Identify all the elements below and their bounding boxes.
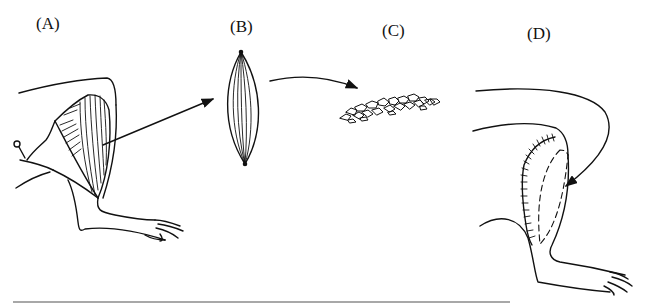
implant-region xyxy=(539,150,568,244)
panel-d-limb-drawing xyxy=(473,89,632,295)
arrow-a-to-b xyxy=(103,99,213,145)
panel-b-muscle-drawing xyxy=(228,50,259,165)
arrow-b-to-c xyxy=(270,77,357,88)
bottom-rule xyxy=(13,301,510,303)
panel-a-limb-drawing xyxy=(14,78,183,241)
figure-canvas xyxy=(0,0,650,305)
panel-c-minced-fragments xyxy=(340,94,440,123)
